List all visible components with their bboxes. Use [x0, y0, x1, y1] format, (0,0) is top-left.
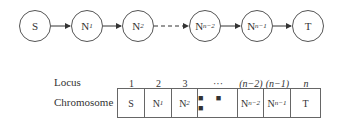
gene-cell-n-2: Nn−2 [237, 88, 264, 118]
node-s: S [19, 10, 51, 42]
gene-cell-n: T [290, 88, 321, 118]
node-nn-2: Nn−2 [189, 10, 221, 42]
locus-label: Locus [54, 76, 81, 88]
node-n2: N2 [122, 10, 154, 42]
gene-cell-ellipsis: ■ ■ ■ [197, 88, 238, 118]
gene-cell-n-1: Nn−1 [263, 88, 291, 118]
node-t: T [292, 10, 324, 42]
gene-cell-2: N1 [144, 88, 172, 118]
chromosome-label: Chromosome [54, 96, 113, 108]
gene-cell-3: N2 [171, 88, 198, 118]
gene-cell-1: S [117, 88, 145, 118]
node-n1: N1 [71, 10, 103, 42]
node-nn-1: Nn−1 [241, 10, 273, 42]
